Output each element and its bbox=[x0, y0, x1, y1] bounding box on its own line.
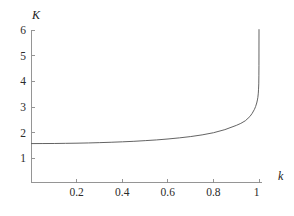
x-tick-label-0-6: 0.6 bbox=[161, 186, 176, 198]
y-tick-label-5: 5 bbox=[20, 50, 26, 62]
y-tick-label-4: 4 bbox=[20, 75, 26, 87]
y-tick-label-1: 1 bbox=[20, 152, 26, 164]
y-tick-label-6: 6 bbox=[20, 24, 26, 36]
x-axis-title: k bbox=[278, 169, 284, 183]
elliptic-integral-plot: K k 6 5 4 3 2 1 0.2 0.4 0.6 0.8 1 bbox=[0, 0, 294, 216]
y-axis-title: K bbox=[31, 8, 41, 22]
x-tick-label-0-4: 0.4 bbox=[115, 186, 130, 198]
x-tick-label-0-2: 0.2 bbox=[69, 186, 84, 198]
plot-canvas: K k 6 5 4 3 2 1 0.2 0.4 0.6 0.8 1 bbox=[0, 0, 294, 216]
kk-curve bbox=[32, 30, 260, 144]
y-tick-label-2: 2 bbox=[20, 127, 26, 139]
x-axis-ticks bbox=[77, 179, 259, 183]
top-clip-mask bbox=[0, 0, 294, 29]
y-axis-ticks bbox=[32, 30, 36, 158]
x-tick-label-0-8: 0.8 bbox=[206, 186, 221, 198]
x-tick-label-1: 1 bbox=[254, 186, 260, 198]
y-tick-label-3: 3 bbox=[20, 101, 26, 113]
